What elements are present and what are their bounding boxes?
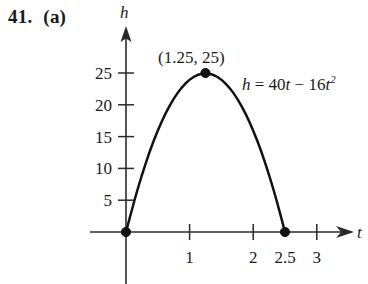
equation-operator: −	[295, 75, 305, 94]
equation-equals: =	[255, 75, 265, 94]
y-axis-tick-label: 20	[60, 96, 112, 113]
x-axis-tick-label: 1	[185, 249, 194, 266]
vertex-coordinate-label: (1.25, 25)	[158, 49, 225, 66]
y-axis-tick-label: 10	[60, 160, 112, 177]
x-axis-tick-label: 2.5	[274, 249, 295, 266]
y-axis-tick-label: 15	[60, 128, 112, 145]
equation-label: h = 40t − 16t2	[242, 76, 336, 93]
marked-point-origin	[121, 227, 130, 236]
parabola-curve	[126, 73, 285, 232]
equation-term2-coefficient: 16	[308, 75, 325, 94]
figure-container: 41.(a) 252015105 122.53 h t (1.25, 25) h…	[0, 0, 368, 284]
x-axis-tick-label: 3	[313, 249, 322, 266]
equation-lhs: h	[242, 75, 251, 94]
y-axis-label: h	[120, 4, 129, 21]
x-axis-label: t	[357, 224, 362, 241]
y-axis-tick-label: 25	[60, 65, 112, 82]
marked-point-root	[280, 227, 289, 236]
y-axis-tick-label: 5	[60, 192, 112, 209]
x-axis-tick-label: 2	[249, 249, 258, 266]
parabola-plot	[0, 0, 368, 284]
marked-point-vertex	[201, 68, 210, 77]
equation-term1-variable: t	[286, 75, 291, 94]
equation-term1-coefficient: 40	[269, 75, 286, 94]
equation-term2-exponent: 2	[330, 73, 336, 85]
